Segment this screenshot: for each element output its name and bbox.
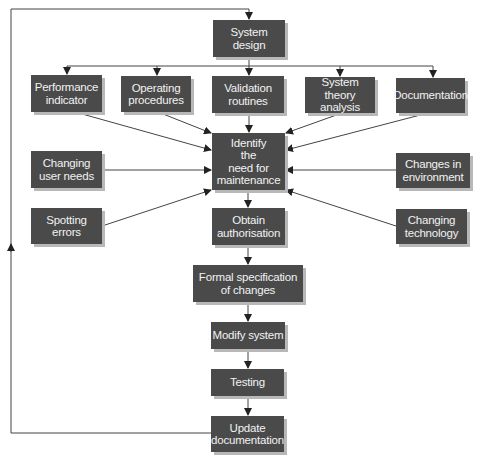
node-obtain-authorisation: Obtain authorisation xyxy=(212,208,285,245)
node-system-design: System design xyxy=(213,20,285,57)
node-update-documentation: Update documentation xyxy=(211,416,284,452)
edge-performance-indicator-to-identify xyxy=(75,112,211,150)
node-validation-routines: Validation routines xyxy=(212,76,284,113)
node-performance-indicator: Performance indicator xyxy=(31,75,102,112)
node-testing: Testing xyxy=(211,369,284,396)
node-changing-technology: Changing technology xyxy=(396,209,467,244)
node-spotting-errors: Spotting errors xyxy=(31,208,102,244)
edge-documentation-to-identify xyxy=(286,113,428,150)
node-changing-user-needs: Changing user needs xyxy=(31,151,102,188)
edge-operating-procedures-to-identify xyxy=(158,112,211,133)
node-operating-procedures: Operating procedures xyxy=(121,76,191,112)
node-formal-specification-of-changes: Formal specification of changes xyxy=(193,265,303,302)
node-changes-in-environment: Changes in environment xyxy=(396,153,470,188)
node-modify-system: Modify system xyxy=(211,322,285,349)
maintenance-flow-diagram: System design Performance indicator Oper… xyxy=(0,0,479,462)
edge-spotting-errors-to-identify xyxy=(102,190,211,226)
node-identify-need-for-maintenance: Identify the need for maintenance xyxy=(212,133,285,190)
node-system-theory-analysis: System theory analysis xyxy=(305,77,375,113)
edge-changing-technology-to-identify xyxy=(286,190,396,226)
edge-system-theory-analysis-to-identify xyxy=(286,113,342,133)
node-documentation: Documentation xyxy=(396,78,465,113)
